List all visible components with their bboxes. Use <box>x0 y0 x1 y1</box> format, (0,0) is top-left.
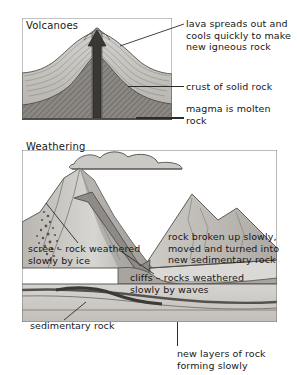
label-crust: crust of solid rock <box>186 81 272 93</box>
leader-line-crust <box>128 86 184 87</box>
label-new-layers: new layers of rock forming slowly <box>177 348 266 371</box>
leader-line-new-layers <box>177 322 178 346</box>
label-lava: lava spreads out and cools quickly to ma… <box>186 18 291 53</box>
leader-line-sedimentary <box>60 300 90 322</box>
leader-line-scree <box>42 200 82 245</box>
label-cliffs: cliffs – rocks weathered slowly by waves <box>130 272 244 295</box>
label-sedimentary-rock: sedimentary rock <box>30 320 115 332</box>
weathering-panel-heading: Weathering <box>26 141 86 152</box>
diagram-stage: Volcanoes lava spreads out and cools qui… <box>0 0 297 375</box>
leader-line-magma <box>136 117 184 119</box>
volcano-panel-heading: Volcanoes <box>26 20 78 31</box>
leader-line-lava <box>118 20 188 48</box>
label-magma: magma is molten rock <box>186 103 271 126</box>
label-rock-broken: rock broken up slowly, moved and turned … <box>168 231 279 266</box>
